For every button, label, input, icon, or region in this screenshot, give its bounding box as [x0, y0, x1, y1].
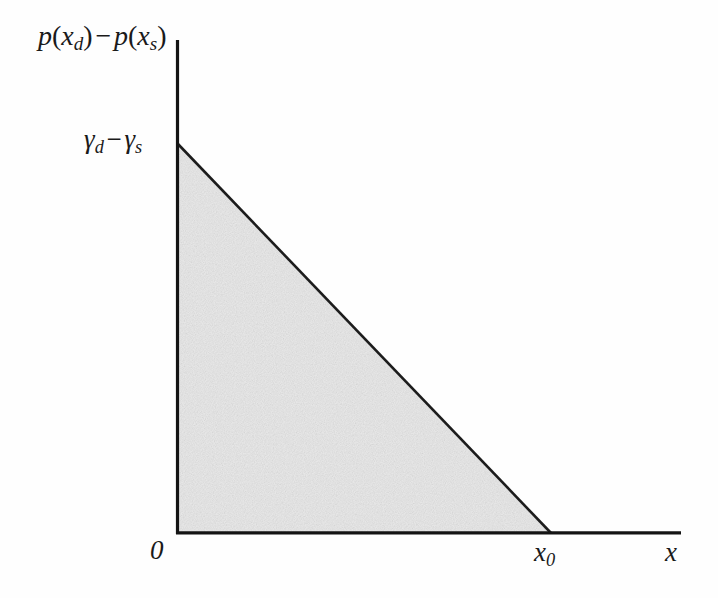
gamma-s-subscript: s	[135, 137, 142, 157]
y-axis-label-sub1: d	[74, 33, 84, 54]
y-axis-label-minus: −	[93, 20, 114, 51]
x-axis-label: x	[665, 539, 677, 566]
x0-variable: x	[534, 537, 546, 567]
figure-canvas: p(xd)−p(xs) γd−γs 0 x0 x	[0, 0, 718, 598]
y-axis-label-open2: (	[128, 20, 137, 51]
y-axis-label-p1: p	[38, 20, 52, 51]
gamma-d-symbol: γ	[84, 124, 95, 154]
y-axis-label-close1: )	[83, 20, 92, 51]
y-intercept-tick-label: γd−γs	[84, 126, 142, 157]
x-intercept-tick-label: x0	[534, 539, 555, 570]
gamma-minus-sign: −	[104, 124, 125, 154]
plot-svg	[0, 0, 718, 598]
y-axis-label-close2: )	[157, 20, 166, 51]
y-axis-label-p2: p	[114, 20, 128, 51]
plot-area	[0, 0, 718, 598]
origin-label: 0	[150, 537, 164, 564]
y-axis-label-var2: x	[137, 20, 149, 51]
x0-subscript: 0	[546, 550, 555, 570]
gamma-d-subscript: d	[95, 137, 104, 157]
y-axis-label-var1: x	[61, 20, 73, 51]
y-axis-label-open1: (	[52, 20, 61, 51]
y-axis-label: p(xd)−p(xs)	[38, 22, 167, 53]
gamma-s-symbol: γ	[124, 124, 135, 154]
